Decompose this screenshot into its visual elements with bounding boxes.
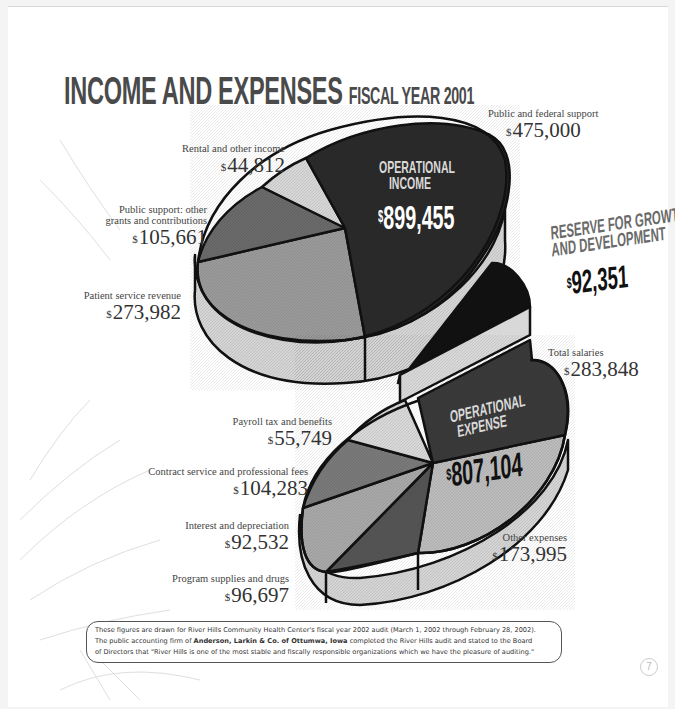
label-other-expenses: Other expenses $173,995 — [492, 532, 567, 565]
label-total-salaries: Total salaries $283,848 — [548, 347, 639, 380]
label-interest-depreciation: Interest and depreciation $92,532 — [185, 520, 289, 553]
footnote-line3: of Directors that "River Hills is one of… — [95, 647, 553, 658]
label-public-federal-support: Public and federal support $475,000 — [488, 108, 599, 141]
label-value: $105,661 — [106, 226, 207, 248]
label-value: $283,848 — [548, 358, 639, 380]
label-value: $475,000 — [488, 119, 599, 141]
income-total-value: 899,455 — [383, 198, 454, 236]
label-rental-other-income: Rental and other income $44,812 — [182, 143, 285, 176]
label-value: $92,532 — [185, 531, 289, 553]
label-caption-1: Public support: other — [106, 204, 207, 215]
footnote-line2: The public accounting firm of Anderson, … — [95, 636, 553, 647]
label-patient-service-revenue: Patient service revenue $273,982 — [84, 290, 181, 323]
label-payroll-tax: Payroll tax and benefits $55,749 — [233, 416, 332, 449]
label-value: $104,283 — [148, 477, 308, 499]
income-label-line2: INCOME — [379, 176, 441, 192]
income-center-label: OPERATIONAL INCOME — [379, 160, 441, 192]
footnote-box: These figures are drawn for River Hills … — [86, 621, 562, 663]
reserve-value: $92,351 — [566, 261, 625, 300]
label-value: $173,995 — [492, 543, 567, 565]
label-value: $55,749 — [233, 427, 332, 449]
page-number: 7 — [640, 658, 658, 676]
label-value: $96,697 — [172, 584, 289, 606]
label-contract-service: Contract service and professional fees $… — [148, 466, 308, 499]
label-value: $44,812 — [182, 154, 285, 176]
income-total: $899,455 — [378, 200, 442, 234]
label-program-supplies: Program supplies and drugs $96,697 — [172, 573, 289, 606]
label-value: $273,982 — [84, 301, 181, 323]
label-public-support-other: Public support: other grants and contrib… — [106, 204, 207, 248]
footnote-line1: These figures are drawn for River Hills … — [95, 625, 553, 636]
